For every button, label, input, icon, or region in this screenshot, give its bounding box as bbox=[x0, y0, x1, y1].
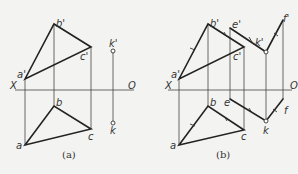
point-k-prime bbox=[264, 50, 268, 54]
label-k: k bbox=[110, 125, 117, 136]
label-e-prime: e' bbox=[232, 19, 241, 30]
triangle-top-view-a bbox=[25, 106, 91, 145]
triangle-top-view-b bbox=[179, 106, 244, 145]
point-k-prime bbox=[111, 49, 115, 53]
caption-a: (a) bbox=[62, 149, 76, 160]
diagram-canvas: X O a' b' c' k' b c a k (a) bbox=[0, 0, 298, 174]
axis-label-x: X bbox=[164, 80, 173, 91]
label-k-prime: k' bbox=[109, 38, 118, 49]
projection-diagram: X O a' b' c' k' b c a k (a) bbox=[0, 0, 298, 174]
label-b-prime: b' bbox=[210, 18, 219, 29]
label-c-prime: c' bbox=[233, 51, 241, 62]
label-a: a bbox=[170, 140, 176, 151]
figure-a: X O a' b' c' k' b c a k (a) bbox=[9, 18, 136, 160]
label-f: f bbox=[284, 105, 289, 116]
figure-b: X O a' b' e' c' k' f' b e c a k f (b) bbox=[164, 13, 298, 160]
caption-b: (b) bbox=[216, 149, 230, 160]
label-a-prime: a' bbox=[17, 69, 26, 80]
label-a-prime: a' bbox=[171, 69, 180, 80]
label-c: c bbox=[241, 131, 247, 142]
axis-label-o: O bbox=[128, 80, 136, 91]
label-f-prime: f' bbox=[283, 13, 289, 24]
label-a: a bbox=[16, 140, 22, 151]
label-k: k bbox=[263, 125, 270, 136]
label-b: b bbox=[56, 97, 62, 108]
point-k bbox=[264, 119, 268, 123]
label-k-prime: k' bbox=[255, 37, 264, 48]
axis-label-x: X bbox=[9, 80, 18, 91]
label-c: c bbox=[88, 131, 94, 142]
axis-label-o: O bbox=[290, 80, 298, 91]
label-e: e bbox=[224, 97, 230, 108]
label-b-prime: b' bbox=[56, 18, 65, 29]
label-c-prime: c' bbox=[80, 51, 88, 62]
label-b: b bbox=[210, 97, 216, 108]
